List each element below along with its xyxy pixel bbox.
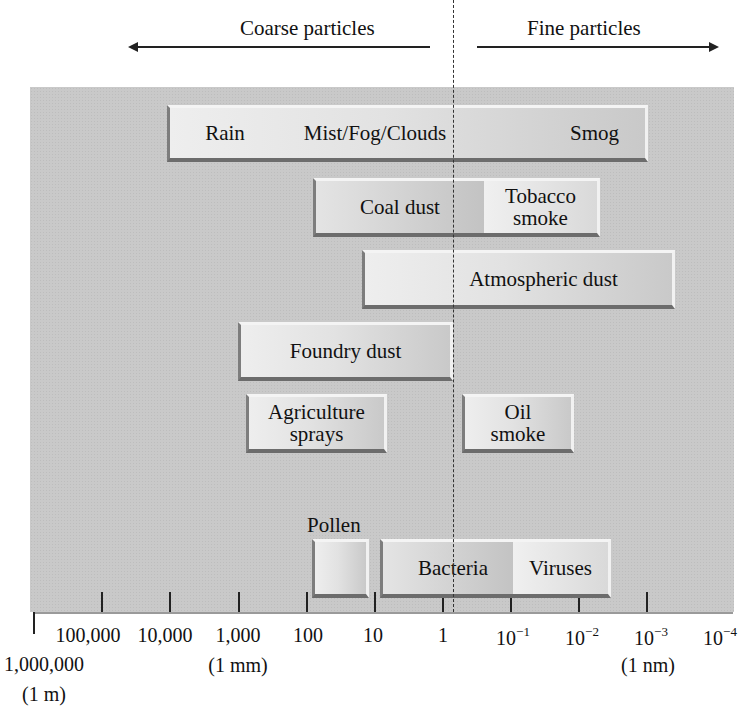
agriculture-sprays-line1: Agriculture <box>268 401 365 423</box>
tick-base: 10 <box>565 627 585 649</box>
pollen-label: Pollen <box>307 513 361 538</box>
pollen-box <box>312 539 369 598</box>
tick-label-10e-3: 10−3 <box>634 624 668 650</box>
tick-base: 10 <box>634 627 654 649</box>
tick-exponent: −3 <box>654 624 668 639</box>
tick-label-10e-1: 10−1 <box>496 624 530 650</box>
tick-label-10: 10 <box>363 624 383 647</box>
arrowhead-left-icon <box>128 42 138 52</box>
fine-particles-label: Fine particles <box>527 16 641 41</box>
oil-smoke-line2: smoke <box>491 423 546 445</box>
axis-tick <box>306 592 308 612</box>
coarse-particles-label: Coarse particles <box>240 16 375 41</box>
arrow-left-icon <box>130 46 430 48</box>
axis-tick <box>374 592 376 612</box>
rain-mist-smog-box: Rain Mist/Fog/Clouds Smog <box>167 105 648 162</box>
axis-line <box>33 612 733 614</box>
tick-exponent: −2 <box>585 624 599 639</box>
agriculture-sprays-line2: sprays <box>290 423 344 445</box>
tick-label-10e-4: 10−4 <box>703 624 737 650</box>
axis-tick <box>238 592 240 612</box>
tick-label-100000: 100,000 <box>56 624 121 647</box>
foundry-dust-label: Foundry dust <box>290 340 401 362</box>
axis-tick <box>169 592 171 612</box>
axis-tick <box>510 598 512 612</box>
axis-tick <box>33 612 35 634</box>
arrowhead-right-icon <box>709 42 719 52</box>
axis-tick <box>101 592 103 612</box>
tick-base: 10 <box>703 627 723 649</box>
axis-tick <box>646 592 648 612</box>
tobacco-smoke-line1: Tobacco <box>505 185 576 207</box>
coal-dust-label: Coal dust <box>316 181 484 233</box>
rain-label: Rain <box>170 108 280 158</box>
tobacco-smoke-line2: smoke <box>513 207 568 229</box>
agriculture-sprays-box: Agriculture sprays <box>246 394 387 453</box>
mist-fog-clouds-label: Mist/Fog/Clouds <box>280 108 470 158</box>
bacteria-label: Bacteria <box>383 542 513 594</box>
atmospheric-dust-label: Atmospheric dust <box>469 268 618 290</box>
unit-label-1mm: (1 mm) <box>208 654 267 677</box>
tick-exponent: −4 <box>723 624 737 639</box>
foundry-dust-box: Foundry dust <box>238 322 453 381</box>
arrow-right-icon <box>477 46 717 48</box>
axis-tick <box>442 598 444 612</box>
tick-label-1000: 1,000 <box>216 624 261 647</box>
oil-smoke-line1: Oil <box>505 401 532 423</box>
tick-exponent: −1 <box>516 624 530 639</box>
unit-label-1nm: (1 nm) <box>621 654 675 677</box>
tick-label-10e-2: 10−2 <box>565 624 599 650</box>
oil-smoke-box: Oil smoke <box>462 394 574 453</box>
axis-tick <box>578 598 580 612</box>
bacteria-viruses-box: Bacteria Viruses <box>380 539 611 598</box>
atmospheric-dust-box: Atmospheric dust <box>362 250 675 309</box>
tick-label-10000: 10,000 <box>138 624 193 647</box>
unit-label-1m: (1 m) <box>22 683 66 706</box>
smog-label: Smog <box>470 108 645 158</box>
coal-tobacco-box: Coal dust Tobacco smoke <box>313 178 600 237</box>
tobacco-smoke-label: Tobacco smoke <box>484 181 597 233</box>
tick-label-100: 100 <box>293 624 323 647</box>
tick-base: 10 <box>496 627 516 649</box>
tick-label-1000000: 1,000,000 <box>4 653 84 676</box>
coarse-fine-divider <box>453 0 454 612</box>
viruses-label: Viruses <box>513 542 608 594</box>
tick-label-1: 1 <box>438 624 448 647</box>
